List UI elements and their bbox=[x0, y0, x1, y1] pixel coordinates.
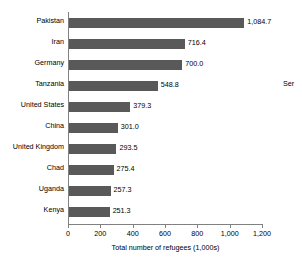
bar-value-label: 1,084.7 bbox=[247, 17, 271, 26]
x-tick-label: 1,000 bbox=[221, 229, 239, 238]
category-label: Pakistan bbox=[0, 16, 64, 25]
bar bbox=[69, 102, 130, 112]
x-tick-mark bbox=[230, 224, 231, 228]
bar bbox=[69, 39, 185, 49]
bar-value-label: 293.5 bbox=[119, 143, 137, 152]
bar-row: United States379.3 bbox=[0, 97, 302, 118]
x-tick-label: 1,200 bbox=[253, 229, 271, 238]
x-axis-title: Total number of refugees (1,000s) bbox=[68, 243, 263, 253]
category-label: United Kingdom bbox=[0, 142, 64, 151]
bar bbox=[69, 18, 244, 28]
bar bbox=[69, 144, 116, 154]
bar-row: Uganda257.3 bbox=[0, 181, 302, 202]
x-tick-mark bbox=[68, 224, 69, 228]
category-label: China bbox=[0, 121, 64, 130]
category-label: Germany bbox=[0, 58, 64, 67]
category-label: Iran bbox=[0, 37, 64, 46]
category-label: United States bbox=[0, 100, 64, 109]
bar-value-label: 379.3 bbox=[133, 101, 151, 110]
bar-value-label: 301.0 bbox=[121, 122, 139, 131]
category-label: Uganda bbox=[0, 184, 64, 193]
bar-row: United Kingdom293.5 bbox=[0, 139, 302, 160]
bar-value-label: 251.3 bbox=[113, 206, 131, 215]
bar-row: Pakistan1,084.7 bbox=[0, 13, 302, 34]
category-label: Kenya bbox=[0, 205, 64, 214]
x-tick-mark bbox=[133, 224, 134, 228]
bar bbox=[69, 207, 110, 217]
bar-value-label: 716.4 bbox=[188, 38, 206, 47]
x-tick-label: 0 bbox=[66, 229, 70, 238]
x-tick-label: 400 bbox=[127, 229, 139, 238]
bar-row: Tanzania548.8 bbox=[0, 76, 302, 97]
bar-row: Kenya251.3 bbox=[0, 202, 302, 223]
x-tick-mark bbox=[100, 224, 101, 228]
x-tick-label: 600 bbox=[159, 229, 171, 238]
bar bbox=[69, 165, 114, 175]
bar bbox=[69, 186, 111, 196]
bar-value-label: 257.3 bbox=[114, 185, 132, 194]
bar-row: Iran716.4 bbox=[0, 34, 302, 55]
bar-value-label: 548.8 bbox=[161, 80, 179, 89]
bar-row: Germany700.0 bbox=[0, 55, 302, 76]
category-label: Tanzania bbox=[0, 79, 64, 88]
bar-row: Chad275.4 bbox=[0, 160, 302, 181]
refugees-bar-chart: 02004006008001,0001,200 Total number of … bbox=[0, 0, 302, 263]
x-tick-mark bbox=[165, 224, 166, 228]
bar-row: China301.0 bbox=[0, 118, 302, 139]
category-label: Chad bbox=[0, 163, 64, 172]
bar-value-label: 700.0 bbox=[185, 59, 203, 68]
x-tick-label: 800 bbox=[191, 229, 203, 238]
bar bbox=[69, 123, 118, 133]
bar bbox=[69, 60, 182, 70]
x-tick-mark bbox=[262, 224, 263, 228]
x-tick-mark bbox=[197, 224, 198, 228]
bar bbox=[69, 81, 158, 91]
x-tick-label: 200 bbox=[94, 229, 106, 238]
bar-value-label: 275.4 bbox=[117, 164, 135, 173]
